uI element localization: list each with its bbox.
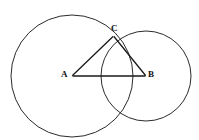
geometry-canvas xyxy=(0,0,199,140)
vertex-label-b: B xyxy=(148,70,154,79)
vertex-label-c: C xyxy=(111,24,118,33)
segment-ac xyxy=(73,37,113,76)
vertex-label-a: A xyxy=(61,70,68,79)
geometry-figure: A B C xyxy=(0,0,199,140)
segment-bc xyxy=(114,37,145,75)
